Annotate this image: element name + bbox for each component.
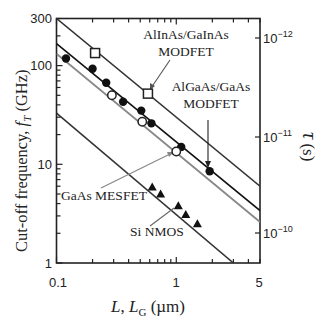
triangle-marker: [148, 182, 157, 190]
filled-circle-marker: [147, 119, 155, 127]
filled-circle-marker: [119, 98, 127, 106]
svg-text:10−11: 10−11: [263, 128, 292, 145]
filled-circle-marker: [88, 65, 96, 73]
triangle-marker: [174, 201, 183, 209]
filled-circle-marker: [137, 106, 145, 114]
y-axis-label: Cut-off frequency, fT (GHz): [12, 69, 33, 252]
open-circle-marker: [172, 147, 180, 155]
open-circle-marker: [108, 91, 116, 99]
svg-text:10−12: 10−12: [263, 29, 293, 46]
svg-text:10−10: 10−10: [263, 224, 293, 241]
y2-tick-label-1e-10: 10−10: [263, 224, 293, 241]
square-marker: [143, 89, 152, 98]
x-tick-label-0.1: 0.1: [49, 275, 67, 290]
x-tick-label-1: 1: [172, 275, 179, 290]
y-tick-label-300: 300: [30, 11, 52, 26]
pointer-mesfet: [101, 153, 172, 188]
annotation-alinas-line2: MODFET: [158, 44, 214, 59]
chart: AlInAs/GaInAs MODFET AlGaAs/GaAs MODFET …: [0, 0, 324, 326]
x-tick-label-5: 5: [255, 275, 262, 290]
square-marker: [91, 49, 100, 58]
fit-line: [57, 44, 261, 211]
annotation-nmos: Si NMOS: [130, 224, 184, 239]
y2-axis-label: τ (s): [299, 132, 321, 161]
y-tick-label-1: 1: [45, 256, 52, 271]
y2-tick-label-1e-12: 10−12: [263, 29, 293, 46]
annotation-mesfet: GaAs MESFET: [61, 188, 148, 203]
y-tick-label-100: 100: [30, 58, 52, 73]
open-circle-marker: [138, 118, 146, 126]
pointer-alinas: [151, 60, 170, 88]
annotation-algaas-line2: MODFET: [183, 96, 239, 111]
triangle-marker: [193, 219, 202, 227]
annotation-algaas-line1: AlGaAs/GaAs: [172, 79, 251, 94]
filled-circle-marker: [102, 79, 110, 87]
triangle-marker: [156, 190, 165, 198]
x-axis-label: L, LG (µm): [110, 297, 185, 318]
filled-circle-marker: [62, 54, 70, 62]
y-tick-label-10: 10: [38, 157, 52, 172]
annotation-alinas-line1: AlInAs/GaInAs: [143, 27, 229, 42]
y2-tick-label-1e-11: 10−11: [263, 128, 292, 145]
triangle-marker: [181, 210, 190, 218]
filled-circle-marker: [205, 167, 213, 175]
